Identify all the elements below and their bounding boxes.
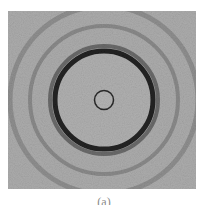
interference-ring-image	[8, 11, 196, 189]
figure-caption: (a)	[0, 196, 208, 205]
inner-circle	[95, 91, 114, 110]
concentric-rings-graphic	[8, 11, 196, 189]
